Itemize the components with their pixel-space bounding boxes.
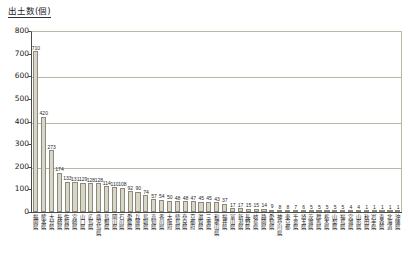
- x-category-label-text: 福岡県: [33, 214, 39, 257]
- x-category-label-text: 茨城県: [308, 214, 314, 257]
- y-axis-ticks: 8007006005004003002001000: [0, 31, 29, 213]
- x-category-label-text: 熊本県: [41, 214, 47, 257]
- x-category-label: 静岡県: [260, 214, 268, 257]
- x-category-label: 埼玉県: [300, 214, 308, 257]
- bar-value-label: 17: [230, 202, 236, 208]
- x-category-label-text: 岩手県: [371, 214, 377, 257]
- bar: 133: [63, 31, 71, 212]
- bar: 7: [292, 31, 300, 212]
- bar-value-label: 114: [103, 180, 111, 186]
- y-tick-label: 100: [3, 185, 29, 193]
- bar: 15: [252, 31, 260, 212]
- bar: 108: [119, 31, 127, 212]
- x-category-label-text: 宮崎県: [72, 214, 78, 257]
- y-tick-mark: [28, 99, 31, 100]
- bar-value-label: 17: [238, 202, 244, 208]
- x-category-label-text: 愛知県: [269, 214, 275, 257]
- bar: 43: [213, 31, 221, 212]
- x-category-label: 熊本県: [40, 214, 48, 257]
- bar-rect: [135, 192, 140, 212]
- bar-value-label: 7: [294, 204, 297, 210]
- x-category-label-text: 石川県: [119, 214, 125, 257]
- y-tick-label: 300: [3, 140, 29, 148]
- x-category-label-text: 神奈川県: [277, 214, 283, 257]
- bar: 74: [142, 31, 150, 212]
- bar: 8: [276, 31, 284, 212]
- x-category-label: 東京都: [284, 214, 292, 257]
- bar-value-label: 4: [349, 204, 352, 210]
- y-tick-mark: [28, 54, 31, 55]
- bar: 5: [323, 31, 331, 212]
- bar-value-label: 1: [373, 204, 376, 210]
- x-category-label-text: 奈良県: [182, 214, 188, 257]
- bar-value-label: 5: [318, 204, 321, 210]
- bar: 37: [221, 31, 229, 212]
- x-category-label: 愛媛県: [126, 214, 134, 257]
- bar-value-label: 5: [334, 204, 337, 210]
- bar: 5: [315, 31, 323, 212]
- x-category-label-text: 佐賀県: [64, 214, 70, 257]
- bar-rect: [159, 200, 164, 212]
- bar-rect: [33, 51, 38, 212]
- x-category-label: 島根県: [103, 214, 111, 257]
- bar-value-label: 174: [55, 166, 63, 172]
- bar: 131: [71, 31, 79, 212]
- x-axis-category-labels: 福岡県熊本県大分県長崎県佐賀県宮崎県山口県広島県鹿児島県島根県岡山県石川県愛媛県…: [32, 214, 402, 257]
- bar-rect: [143, 195, 148, 212]
- bar: 45: [197, 31, 205, 212]
- bar: 6: [300, 31, 308, 212]
- x-category-label: 愛知県: [268, 214, 276, 257]
- y-tick-label: 800: [3, 27, 29, 35]
- bar: 57: [150, 31, 158, 212]
- x-category-label-text: 京都府: [190, 214, 196, 257]
- bar-value-label: 45: [198, 195, 204, 201]
- x-category-label: 岡山県: [111, 214, 119, 257]
- bar-value-label: 45: [206, 195, 212, 201]
- x-category-label: 福岡県: [32, 214, 40, 257]
- bar-rect: [65, 182, 70, 212]
- y-tick-label: 700: [3, 50, 29, 58]
- bar-value-label: 5: [326, 204, 329, 210]
- x-category-label: 長崎県: [56, 214, 64, 257]
- x-category-label-text: 徳島県: [175, 214, 181, 257]
- bars-layer: 7104202731741331311291281281141101089290…: [32, 31, 402, 212]
- y-tick-label: 400: [3, 118, 29, 126]
- x-category-label-text: 北海道: [387, 214, 393, 257]
- x-category-label: 群馬県: [315, 214, 323, 257]
- y-tick-mark: [28, 144, 31, 145]
- bar-rect: [167, 201, 172, 212]
- x-category-label: 奈良県: [182, 214, 190, 257]
- bar-rect: [151, 199, 156, 212]
- bar: 47: [189, 31, 197, 212]
- bar: 48: [182, 31, 190, 212]
- bar: 1: [371, 31, 379, 212]
- x-category-label-text: 富山県: [230, 214, 236, 257]
- bar-rect: [222, 204, 227, 212]
- bar-value-label: 47: [191, 195, 197, 201]
- x-category-label-text: 鹿児島県: [96, 214, 102, 257]
- y-tick-mark: [28, 122, 31, 123]
- y-tick-label: 600: [3, 72, 29, 80]
- bar: 17: [229, 31, 237, 212]
- bar: 1: [394, 31, 402, 212]
- bar-value-label: 90: [135, 185, 141, 191]
- x-category-label-text: 鳥取県: [143, 214, 149, 257]
- x-category-label-text: 新潟県: [238, 214, 244, 257]
- bar: 710: [32, 31, 40, 212]
- bar: 9: [268, 31, 276, 212]
- x-category-label: 岩手県: [371, 214, 379, 257]
- bar: 92: [126, 31, 134, 212]
- bar-value-label: 15: [254, 202, 260, 208]
- x-category-label-text: 山形県: [356, 214, 362, 257]
- x-category-label-text: 長野県: [245, 214, 251, 257]
- x-category-label-text: 宮城県: [348, 214, 354, 257]
- bar-value-label: 420: [40, 110, 48, 116]
- x-category-label: 北海道: [386, 214, 394, 257]
- bar-rect: [183, 201, 188, 212]
- x-category-label: 秋田県: [363, 214, 371, 257]
- bar: 1: [378, 31, 386, 212]
- bar-value-label: 54: [159, 193, 165, 199]
- bar: 45: [205, 31, 213, 212]
- x-category-label: 大阪府: [166, 214, 174, 257]
- bar-rect: [128, 191, 133, 212]
